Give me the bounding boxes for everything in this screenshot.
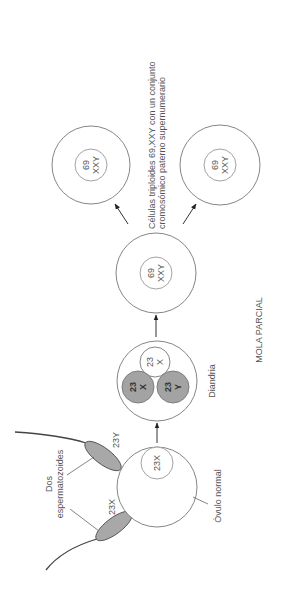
- leader-line: [67, 457, 94, 475]
- pronucleus-sex: Y: [173, 384, 183, 390]
- pronucleus-number: 23: [145, 357, 155, 367]
- sperm-b-label: 23Y: [111, 432, 121, 448]
- result-caption-line2: cromosómico paterno supernumerario: [157, 77, 167, 229]
- triploid-number: 69: [210, 160, 220, 170]
- arrow-icon: [183, 204, 196, 224]
- sperm-group-label: Dos espermatozoides: [44, 449, 99, 531]
- triploid-number: 69: [146, 268, 156, 278]
- triploid-number: 69: [81, 160, 91, 170]
- triploid-karyotype: XXY: [156, 264, 166, 282]
- sperm-23y: 23Y: [15, 432, 125, 476]
- sperm-group-line1: Dos: [44, 476, 54, 493]
- diagram-title: MOLA PARCIAL: [254, 297, 264, 362]
- sperm-tail: [46, 539, 97, 570]
- triploid-karyotype: XXY: [91, 156, 101, 174]
- pronucleus-number: 23: [163, 382, 173, 392]
- result-caption-line1: Células triploides 69,XXY con un conjunt…: [147, 62, 157, 229]
- diandry-label: Diandria: [207, 364, 217, 398]
- triploid-cell-right: 69 XXY: [180, 125, 260, 205]
- ovum-label: Óvulo normal: [213, 469, 223, 523]
- leader-line: [193, 497, 208, 504]
- triploid-cell-left: 69 XXY: [52, 126, 130, 204]
- sperm-group-line2: espermatozoides: [55, 449, 65, 518]
- pronucleus-number: 23: [128, 382, 138, 392]
- diandry-cell: 23 X 23 X 23 Y Diandria: [117, 341, 217, 421]
- pronucleus-sex: X: [155, 359, 165, 365]
- leader-line: [70, 509, 99, 531]
- mola-parcial-diagram: 23Y 23X Dos espermatozoides 23X Óvulo no…: [0, 0, 285, 591]
- pronucleus-sex: X: [138, 384, 148, 390]
- sperm-tail: [15, 432, 86, 443]
- triploid-karyotype: XXY: [220, 156, 230, 174]
- normal-ovum: 23X Óvulo normal: [117, 447, 223, 527]
- triploid-cell-middle: 69 XXY: [116, 233, 196, 313]
- arrow-icon: [115, 204, 128, 224]
- sperm-a-label: 23X: [107, 499, 117, 515]
- ovum-nucleus-label: 23X: [152, 455, 162, 471]
